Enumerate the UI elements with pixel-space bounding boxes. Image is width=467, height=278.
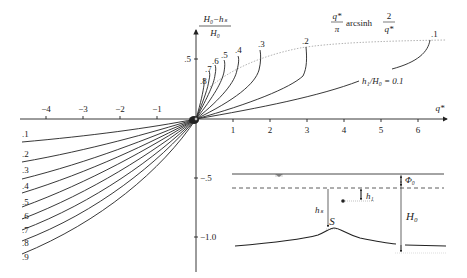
svg-text:.2: .2 (22, 149, 29, 159)
svg-text:−.5: −.5 (200, 173, 212, 183)
negative-curves (22, 119, 196, 254)
svg-text:.3: .3 (22, 165, 29, 175)
svg-text:h₁: h₁ (366, 191, 374, 201)
svg-text:.7: .7 (22, 225, 29, 235)
svg-text:−1: −1 (152, 104, 162, 114)
svg-text:3: 3 (305, 125, 310, 135)
svg-text:.8: .8 (200, 76, 207, 86)
svg-text:.4: .4 (22, 181, 29, 191)
x-axis-label: q* (436, 103, 446, 113)
svg-text:.9: .9 (22, 252, 29, 262)
svg-text:−2: −2 (115, 104, 125, 114)
svg-text:4: 4 (342, 125, 347, 135)
svg-text:.5: .5 (184, 54, 191, 64)
svg-text:.1: .1 (431, 29, 438, 39)
svg-text:H₀: H₀ (209, 28, 220, 38)
svg-text:S: S (329, 215, 335, 227)
svg-text:q*: q* (333, 11, 343, 21)
svg-text:−4: −4 (41, 104, 51, 114)
inset-diagram: h₁ hₛ S Φ₀ H₀ (232, 174, 446, 253)
envelope-label: q* π arcsinh 2 q* (331, 11, 395, 34)
svg-text:5: 5 (379, 125, 384, 135)
svg-text:q*: q* (385, 24, 395, 34)
svg-text:1: 1 (231, 125, 236, 135)
svg-text:.1: .1 (22, 129, 29, 139)
svg-text:hₛ: hₛ (315, 205, 324, 215)
svg-text:.7: .7 (205, 64, 212, 74)
svg-text:2: 2 (268, 125, 273, 135)
svg-text:.4: .4 (235, 45, 242, 55)
chart: −4 −3 −2 −1 1 2 3 4 5 6 q* .5 −.5 −1.0 H… (0, 0, 467, 278)
svg-text:.3: .3 (258, 39, 265, 49)
svg-text:.5: .5 (22, 197, 29, 207)
origin-cluster (189, 116, 199, 124)
svg-text:.2: .2 (302, 36, 309, 46)
annotation-h1-H0: h₁/H₀ = 0.1 (362, 76, 404, 86)
svg-text:2: 2 (387, 11, 392, 21)
svg-text:6: 6 (416, 125, 421, 135)
svg-text:H₀: H₀ (405, 210, 418, 222)
svg-text:arcsinh: arcsinh (346, 18, 372, 28)
svg-text:−3: −3 (78, 104, 88, 114)
negative-curve-labels: .1 .2 .3 .4 .5 .6 .7 .8 .9 (22, 129, 29, 262)
svg-text:−1.0: −1.0 (200, 232, 217, 242)
svg-text:Φ₀: Φ₀ (405, 175, 415, 185)
svg-text:.6: .6 (212, 56, 219, 66)
origin-point (195, 118, 198, 121)
envelope-curve (210, 40, 446, 87)
svg-text:.8: .8 (22, 238, 29, 248)
svg-text:.6: .6 (22, 211, 29, 221)
svg-text:.5: .5 (221, 50, 228, 60)
svg-text:π: π (335, 24, 340, 34)
svg-text:H₀−hₛ: H₀−hₛ (202, 14, 227, 24)
y-axis-label: H₀−hₛ H₀ (199, 14, 231, 38)
